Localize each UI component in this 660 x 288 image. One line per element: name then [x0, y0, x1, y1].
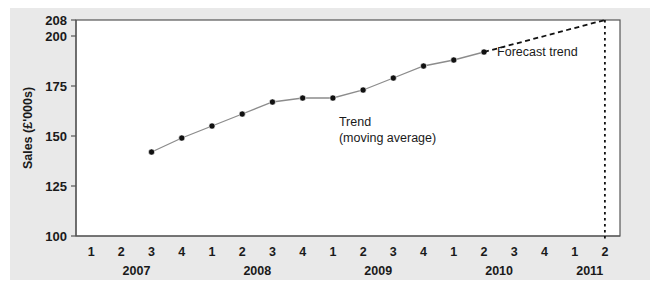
- x-axis-year-label: 2007: [123, 264, 151, 278]
- x-axis-quarter-label: 4: [541, 245, 548, 259]
- y-axis-tick-label: 200: [45, 29, 67, 44]
- x-axis-quarter-label: 1: [88, 245, 95, 259]
- y-axis-tick-label: 208: [45, 13, 67, 28]
- y-axis-tick-label: 175: [45, 79, 67, 94]
- x-axis-quarter-label: 1: [571, 245, 578, 259]
- x-axis-year-label: 2008: [243, 264, 271, 278]
- data-point-marker: [330, 95, 336, 101]
- x-axis-quarter-label: 4: [420, 245, 427, 259]
- x-axis-quarter-label: 1: [329, 245, 336, 259]
- x-axis: 12341234123412341220072008200920102011: [76, 236, 620, 278]
- x-axis-quarter-label: 3: [148, 245, 155, 259]
- y-axis: 100125150175200208: [45, 13, 76, 244]
- x-axis-quarter-label: 2: [118, 245, 125, 259]
- x-axis-quarter-label: 1: [450, 245, 457, 259]
- data-point-marker: [451, 57, 457, 63]
- data-point-marker: [209, 123, 215, 129]
- x-axis-quarter-label: 3: [390, 245, 397, 259]
- x-axis-year-label: 2009: [364, 264, 392, 278]
- x-axis-quarter-label: 2: [360, 245, 367, 259]
- x-axis-quarter-label: 2: [601, 245, 608, 259]
- data-point-marker: [148, 149, 154, 155]
- data-point-marker: [360, 87, 366, 93]
- x-axis-quarter-label: 3: [511, 245, 518, 259]
- x-axis-year-label: 2011: [576, 264, 603, 278]
- data-point-marker: [239, 111, 245, 117]
- sales-trend-chart: 100125150175200208 123412341234123412200…: [0, 0, 660, 288]
- data-point-marker: [420, 63, 426, 69]
- x-axis-quarter-label: 1: [209, 245, 216, 259]
- y-axis-tick-label: 125: [45, 179, 67, 194]
- figure-container: 100125150175200208 123412341234123412200…: [0, 0, 660, 288]
- data-point-marker: [269, 99, 275, 105]
- forecast-annotation-line1: Forecast trend: [497, 45, 578, 59]
- y-axis-tick-label: 150: [45, 129, 67, 144]
- data-point-marker: [179, 135, 185, 141]
- x-axis-quarter-label: 3: [269, 245, 276, 259]
- data-point-marker: [300, 95, 306, 101]
- trend-annotation-line2: (moving average): [339, 131, 436, 145]
- x-axis-quarter-label: 2: [239, 245, 246, 259]
- x-axis-quarter-label: 4: [299, 245, 306, 259]
- x-axis-quarter-label: 2: [481, 245, 488, 259]
- x-axis-year-label: 2010: [485, 264, 513, 278]
- y-axis-title: Sales (£'000s): [21, 87, 35, 169]
- x-axis-quarter-label: 4: [178, 245, 185, 259]
- y-axis-tick-label: 100: [45, 229, 67, 244]
- trend-annotation-line1: Trend: [339, 115, 371, 129]
- data-point-marker: [390, 75, 396, 81]
